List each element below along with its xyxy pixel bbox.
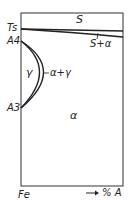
axis-right-label: % A: [102, 188, 122, 198]
a3-label: A3: [7, 103, 20, 113]
region-alpha-gamma: α+γ: [50, 68, 71, 78]
region-liquid-alpha: S+α: [90, 39, 111, 49]
region-liquid: S: [76, 15, 83, 25]
a4-label: A4: [7, 36, 20, 46]
axis-arrow-icon: [95, 191, 99, 196]
region-alpha: α: [70, 111, 77, 121]
region-gamma: γ: [26, 68, 33, 78]
ts-label: Ts: [7, 23, 17, 33]
axis-left-label: Fe: [18, 190, 30, 200]
